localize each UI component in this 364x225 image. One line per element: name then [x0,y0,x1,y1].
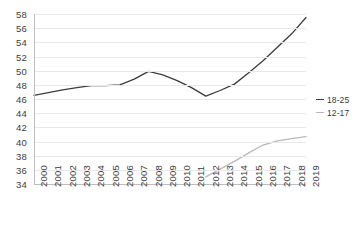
x-axis-tick-label: 2005 [110,165,121,187]
x-axis-tick-label: 2004 [95,165,106,187]
gridline [34,42,306,43]
x-axis-tick-label: 2001 [52,165,63,187]
x-axis-tick-label: 2012 [210,165,221,187]
chart-legend: 18-2512-17 [316,93,349,119]
y-axis-line [34,14,35,184]
y-axis-tick-label: 54 [0,37,27,48]
gridline [34,71,306,72]
gridline [34,28,306,29]
x-axis-tick-label: 2010 [181,165,192,187]
gridline [34,113,306,114]
legend-label: 12-17 [327,108,349,118]
y-axis-tick-labels: 34363840424446485052545658 [0,0,32,225]
x-axis-tick-label: 2016 [267,165,278,187]
gridline [34,57,306,58]
x-axis-tick-label: 2015 [253,165,264,187]
x-axis-tick-label: 2002 [67,165,78,187]
y-axis-tick-label: 38 [0,151,27,162]
x-axis-tick-label: 2008 [153,165,164,187]
legend-item[interactable]: 12-17 [316,106,349,119]
plot-area [34,14,306,184]
gridline [34,156,306,157]
y-axis-tick-label: 46 [0,94,27,105]
legend-swatch-icon [316,99,324,101]
x-axis-tick-label: 2009 [167,165,178,187]
x-axis-tick-label: 2017 [281,165,292,187]
y-axis-tick-label: 40 [0,137,27,148]
legend-swatch-icon [316,112,324,114]
y-axis-tick-label: 56 [0,23,27,34]
y-axis-tick-label: 52 [0,52,27,63]
gridline [34,85,306,86]
y-axis-tick-label: 42 [0,122,27,133]
y-axis-tick-label: 34 [0,179,27,190]
gridline [34,142,306,143]
x-axis-tick-label: 2013 [224,165,235,187]
x-axis-tick-label: 2007 [138,165,149,187]
line-chart: 34363840424446485052545658 2000200120022… [0,0,364,225]
x-axis-tick-label: 2000 [38,165,49,187]
y-axis-tick-label: 58 [0,9,27,20]
x-axis-tick-label: 2006 [124,165,135,187]
gridline [34,14,306,15]
legend-item[interactable]: 18-25 [316,93,349,106]
legend-label: 18-25 [327,95,349,105]
y-axis-tick-label: 50 [0,66,27,77]
x-axis-tick-label: 2019 [310,165,321,187]
x-axis-tick-label: 2011 [195,166,206,187]
y-axis-tick-label: 48 [0,80,27,91]
gridline [34,127,306,128]
gridline [34,99,306,100]
y-axis-tick-label: 44 [0,108,27,119]
x-axis-tick-label: 2014 [238,165,249,187]
y-axis-tick-label: 36 [0,165,27,176]
x-axis-tick-label: 2018 [296,165,307,187]
x-axis-tick-label: 2003 [81,165,92,187]
